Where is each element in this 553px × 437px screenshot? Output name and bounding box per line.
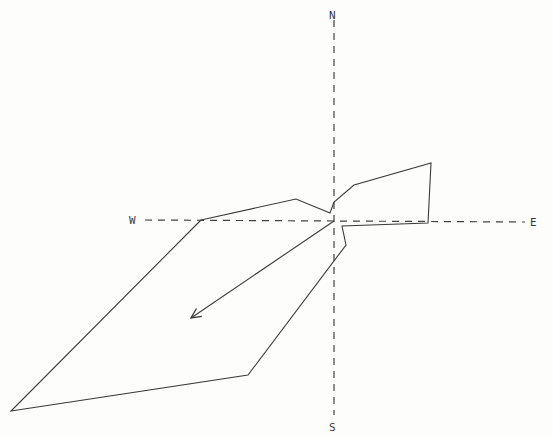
label-south: S	[329, 421, 336, 434]
label-west: W	[129, 214, 136, 227]
wind-rose-polygon	[11, 163, 431, 411]
resultant-arrow	[191, 221, 334, 318]
label-east: E	[530, 216, 537, 229]
wind-rose-diagram: N S W E	[0, 0, 553, 437]
label-north: N	[329, 9, 336, 22]
